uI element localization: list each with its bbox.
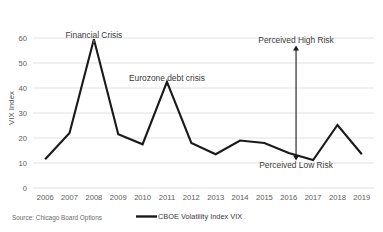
- x-tick-label-2019: 2019: [353, 193, 370, 202]
- annotation-financial-crisis: Financial Crisis: [66, 30, 123, 40]
- x-tick-label-2009: 2009: [110, 193, 127, 202]
- y-axis-title: VIX Index: [7, 91, 16, 125]
- y-tick-label-20: 20: [19, 134, 27, 143]
- y-tick-label-40: 40: [19, 84, 27, 93]
- annotations: Financial CrisisEurozone debt crisisPerc…: [66, 30, 335, 170]
- series-line-cboe-vix: [45, 39, 362, 160]
- source-note: Source: Chicago Board Options: [12, 214, 102, 222]
- series-path-cboe-vix: [45, 39, 362, 160]
- y-axis-tick-labels: 0102030405060: [19, 34, 27, 193]
- risk-range-arrow-head-up: [293, 46, 299, 51]
- x-tick-label-2011: 2011: [159, 193, 175, 202]
- x-tick-label-2006: 2006: [37, 193, 54, 202]
- x-tick-label-2012: 2012: [183, 193, 200, 202]
- annotation-perceived-high-risk: Perceived High Risk: [258, 35, 334, 45]
- annotation-perceived-low-risk: Perceived Low Risk: [259, 160, 333, 170]
- y-tick-label-0: 0: [23, 184, 27, 193]
- x-axis-tick-labels: 2006200720082009201020112012201320142015…: [37, 193, 371, 202]
- x-tick-label-2007: 2007: [61, 193, 78, 202]
- y-tick-label-30: 30: [19, 109, 27, 118]
- y-tick-label-50: 50: [19, 59, 27, 68]
- x-tick-label-2015: 2015: [256, 193, 273, 202]
- x-tick-label-2018: 2018: [329, 193, 346, 202]
- x-tick-label-2014: 2014: [232, 193, 249, 202]
- x-tick-label-2017: 2017: [305, 193, 322, 202]
- x-tick-label-2016: 2016: [280, 193, 297, 202]
- x-tick-label-2008: 2008: [85, 193, 102, 202]
- y-tick-label-60: 60: [19, 34, 27, 43]
- legend-label-0: CBOE Volatility Index VIX: [158, 212, 242, 221]
- annotation-eurozone-debt-crisis: Eurozone debt crisis: [129, 73, 205, 83]
- chart-legend: CBOE Volatility Index VIX: [136, 212, 242, 221]
- y-tick-label-10: 10: [19, 159, 27, 168]
- x-tick-label-2010: 2010: [134, 193, 151, 202]
- vix-chart: 0102030405060 20062007200820092010201120…: [0, 0, 383, 232]
- x-tick-label-2013: 2013: [207, 193, 224, 202]
- chart-canvas: 0102030405060 20062007200820092010201120…: [0, 0, 383, 232]
